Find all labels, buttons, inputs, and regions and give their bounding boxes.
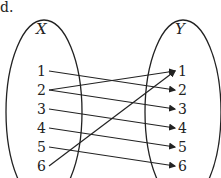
domain-elements: 123456: [37, 63, 46, 174]
codomain-elements: 123456: [178, 63, 187, 174]
domain-element: 1: [37, 63, 46, 79]
codomain-element: 4: [178, 120, 187, 136]
codomain-element: 2: [178, 82, 187, 98]
domain-element: 5: [37, 139, 46, 155]
set-y-name: Y: [175, 20, 187, 38]
domain-element: 6: [37, 158, 46, 174]
codomain-element: 6: [178, 158, 187, 174]
codomain-element: 5: [178, 139, 187, 155]
mapping-arrow: [49, 71, 175, 166]
mapping-diagram: d. X Y 123456 123456: [0, 0, 221, 178]
mapping-arrows: [49, 71, 175, 166]
codomain-element: 3: [178, 101, 187, 117]
domain-element: 3: [37, 101, 46, 117]
problem-label: d.: [0, 0, 13, 15]
domain-element: 2: [37, 82, 46, 98]
set-x-name: X: [35, 20, 48, 38]
mapping-arrow: [49, 147, 175, 166]
mapping-arrow: [49, 90, 175, 109]
codomain-element: 1: [178, 63, 187, 79]
mapping-arrow: [49, 128, 175, 147]
domain-element: 4: [37, 120, 46, 136]
